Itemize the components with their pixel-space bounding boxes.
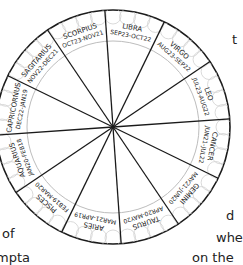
text-fragment-left-bottom: mpta xyxy=(0,250,30,265)
text-fragment-left-low: of xyxy=(2,226,15,241)
center-point xyxy=(111,125,114,128)
text-fragment-right-top: t xyxy=(232,32,237,47)
text-fragment-right-low: whe xyxy=(216,230,243,245)
text-fragment-right-bottom: on the xyxy=(192,250,234,265)
text-fragment-right-mid: d xyxy=(226,208,234,223)
